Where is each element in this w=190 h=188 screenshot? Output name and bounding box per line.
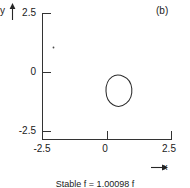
x-tick-label-2.5: 2.5 [155,144,183,154]
x-tick-label-0: 0 [98,144,112,154]
y-tick-label-2.5: 2.5 [10,8,36,18]
y-tick-label-0: 0 [10,67,36,77]
plot-canvas [0,0,190,188]
panel-label: (b) [156,6,168,16]
figure-caption: Stable f = 1.00098 f [0,179,190,188]
y-axis-label: y [0,6,5,16]
stable-orbit-curve [106,75,132,106]
phase-portrait-figure: y x (b) 2.5 0 -2.5 -2.5 0 2.5 Stable f =… [0,0,190,188]
stray-point-marker [53,47,55,49]
y-tick-label-minus-2.5: -2.5 [4,126,36,136]
x-axis-label: x [163,163,168,172]
x-tick-label-minus-2.5: -2.5 [26,144,58,154]
